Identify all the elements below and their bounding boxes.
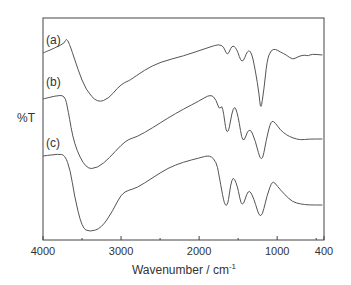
series-label-c: (c) [46,136,60,150]
spectrum-trace-b [43,95,322,168]
x-axis-label-main: Wavenumber / cm [132,263,229,277]
x-tick-label: 2000 [187,245,211,257]
plot-frame [43,18,324,240]
x-tick-label: 1000 [265,245,289,257]
spectrum-trace-c [43,154,322,231]
series-label-b: (b) [46,75,61,89]
spectrum-trace-a [43,40,322,107]
x-tick-label: 3000 [109,245,133,257]
x-tick-label: 4000 [31,245,55,257]
spectra-traces [43,40,322,231]
x-axis-label-superscript: -1 [229,262,237,271]
x-axis-ticks [43,236,324,240]
x-tick-label: 400 [315,245,333,257]
series-label-a: (a) [46,33,61,47]
x-axis-label: Wavenumber / cm-1 [132,262,237,277]
x-axis-tick-labels: 4000300020001000400 [31,245,333,257]
ftir-spectra-chart: 4000300020001000400 (a)(b)(c) %T Wavenum… [0,0,351,285]
y-axis-label: %T [17,111,36,125]
